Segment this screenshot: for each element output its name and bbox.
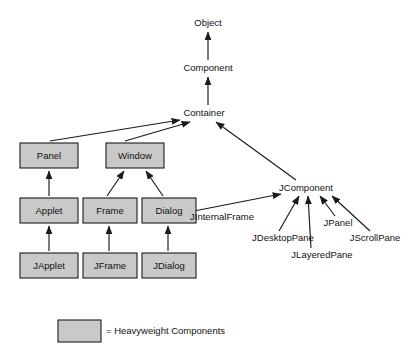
class-label-component: Component: [183, 62, 232, 73]
legend: = Heavyweight Components: [58, 320, 225, 342]
diagram-canvas: PanelWindowAppletFrameDialogJAppletJFram…: [0, 0, 414, 361]
class-label-applet: Applet: [36, 205, 63, 216]
class-label-jscrollpane: JScrollPane: [350, 232, 401, 243]
class-label-window: Window: [118, 150, 152, 161]
box-node-layer: PanelWindowAppletFrameDialogJAppletJFram…: [20, 143, 196, 278]
legend-swatch: [58, 320, 101, 342]
class-label-jdesktoppane: JDesktopPane: [252, 232, 314, 243]
legend-label: = Heavyweight Components: [106, 325, 225, 336]
class-label-jinternalframe: JInternalFrame: [190, 211, 254, 222]
inheritance-arrow-jdesktoppane-to-jcomponent: [279, 196, 299, 231]
class-hierarchy-diagram: PanelWindowAppletFrameDialogJAppletJFram…: [0, 0, 414, 361]
inheritance-arrow-frame-to-window: [107, 171, 124, 196]
class-label-jlayeredpane: JLayeredPane: [291, 249, 352, 260]
class-box-jdialog: JDialog: [142, 253, 196, 278]
class-box-applet: Applet: [20, 198, 78, 223]
class-label-dialog: Dialog: [156, 205, 183, 216]
inheritance-arrow-window-to-container: [125, 122, 190, 141]
class-label-jpanel: JPanel: [323, 217, 352, 228]
class-box-panel: Panel: [20, 143, 78, 168]
class-label-panel: Panel: [37, 150, 61, 161]
inheritance-arrow-jcomponent-to-container: [216, 122, 296, 180]
class-label-jframe: JFrame: [94, 260, 126, 271]
inheritance-arrow-jpanel-to-jcomponent: [320, 196, 335, 216]
class-box-jframe: JFrame: [83, 253, 137, 278]
inheritance-arrow-jinternalframe-to-jcomponent: [194, 194, 281, 211]
class-box-dialog: Dialog: [142, 198, 196, 223]
plain-node-layer: ObjectComponentContainerJComponentJInter…: [183, 17, 400, 260]
class-label-frame: Frame: [96, 205, 123, 216]
class-label-jcomponent: JComponent: [279, 182, 333, 193]
class-label-jdialog: JDialog: [153, 260, 185, 271]
class-box-japplet: JApplet: [20, 253, 78, 278]
class-label-object: Object: [194, 17, 222, 28]
inheritance-arrow-dialog-to-window: [146, 171, 163, 196]
class-box-window: Window: [106, 143, 164, 168]
class-label-japplet: JApplet: [33, 260, 65, 271]
class-label-container: Container: [183, 107, 224, 118]
class-box-frame: Frame: [83, 198, 137, 223]
